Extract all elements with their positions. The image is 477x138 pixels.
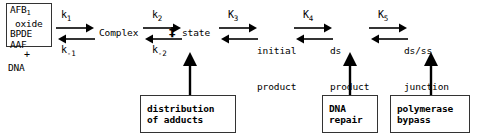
species-complex: Complex [99,27,138,39]
rate-label-k1-forward: k1 [61,9,71,23]
rate-label-K3: K3 [228,9,238,23]
vertical-arrow-dna-repair [341,52,359,96]
initial-product-line2: product [257,81,296,93]
annotation-box-distribution-of-adducts: distribution of adducts [140,95,236,133]
initial-product-line1: initial [257,45,296,57]
arrow-pair-K5 [369,23,409,44]
reactant-dna-label: DNA [8,62,25,73]
annotation-polymerase-line1: polymerase [397,103,469,115]
rate-label-k1-reverse: k-1 [61,44,75,58]
annotation-dna-repair-line1: DNA [329,103,377,115]
annotation-polymerase-line2: bypass [397,114,469,126]
double-dagger-icon: ‡ [169,24,176,39]
species-initial-product: initial product [257,21,296,117]
annotation-distribution-line1: distribution [147,103,235,115]
reactant-box: AFB1 oxide BPDE AAF [6,3,52,47]
species-transition-state: state [182,27,210,39]
plus-sign: + [24,49,30,60]
rate-label-K4: K4 [303,9,313,23]
vertical-arrow-distribution [181,52,199,96]
arrow-pair-k1 [56,23,96,44]
rate-label-k2-forward: k2 [152,9,162,23]
reactant-line-afb1: AFB1 [10,5,51,19]
reactant-line-aaf: AAF [10,40,51,51]
annotation-distribution-line2: of adducts [147,114,235,126]
rate-label-K5: K5 [378,9,388,23]
arrow-pair-K4 [294,23,334,44]
arrow-pair-K3 [219,23,259,44]
kinetic-scheme-diagram: AFB1 oxide BPDE AAF + DNA k1 k-1 Complex… [0,0,477,138]
annotation-dna-repair-line2: repair [329,114,377,126]
rate-label-k2-reverse: k-2 [152,44,166,58]
annotation-box-dna-repair: DNA repair [322,95,378,133]
vertical-arrow-polymerase-bypass [422,52,440,96]
arrow-pair-k2 [143,23,183,44]
annotation-box-polymerase-bypass: polymerase bypass [390,95,470,133]
afb1-subscript: 1 [27,9,31,17]
